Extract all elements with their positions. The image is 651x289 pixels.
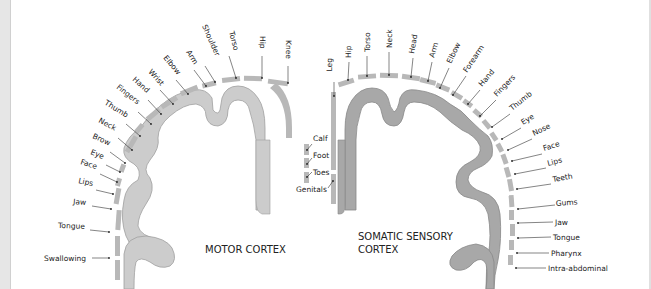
svg-text:Nose: Nose xyxy=(531,121,552,137)
svg-text:Foot: Foot xyxy=(313,151,329,160)
sensory-label-lips: Lips xyxy=(514,156,563,175)
svg-text:Tongue: Tongue xyxy=(552,233,580,242)
svg-text:SOMATIC SENSORY: SOMATIC SENSORY xyxy=(358,231,454,242)
motor-label-knee: Knee xyxy=(284,40,293,84)
svg-text:Lips: Lips xyxy=(546,156,563,168)
svg-text:Jaw: Jaw xyxy=(72,197,87,207)
svg-text:CORTEX: CORTEX xyxy=(358,244,399,255)
sensory-label-hand: Hand xyxy=(467,67,496,105)
sensory-label-neck: Neck xyxy=(385,29,394,76)
sensory-label-arm: Arm xyxy=(427,41,440,82)
svg-text:Tongue: Tongue xyxy=(57,221,85,231)
svg-text:Thumb: Thumb xyxy=(102,98,130,120)
svg-text:Neck: Neck xyxy=(385,29,394,48)
svg-text:Calf: Calf xyxy=(313,134,328,143)
motor-label-tongue: Tongue xyxy=(57,221,110,233)
motor-label-arm: Arm xyxy=(184,48,207,87)
sensory-label-pharynx: Pharynx xyxy=(516,249,582,258)
svg-text:Lips: Lips xyxy=(78,176,95,188)
svg-text:Face: Face xyxy=(542,139,561,153)
svg-text:Neck: Neck xyxy=(97,116,118,133)
sensory-label-gums: Gums xyxy=(517,197,578,209)
motor-cortex-lower-fold xyxy=(124,236,175,289)
svg-text:Arm: Arm xyxy=(427,41,440,58)
svg-text:Pharynx: Pharynx xyxy=(551,249,582,258)
svg-text:Jaw: Jaw xyxy=(554,218,568,227)
sensory-label-head: Head xyxy=(407,33,419,78)
svg-text:Torso: Torso xyxy=(363,32,372,53)
motor-label-shoulder: Shoulder xyxy=(200,23,222,83)
sensory-label-teeth: Teeth xyxy=(516,172,573,190)
sensory-label-eye: Eye xyxy=(501,112,536,140)
sensory-cortex-brain xyxy=(338,88,501,289)
motor-label-toes: Toes xyxy=(306,168,329,178)
svg-text:Brow: Brow xyxy=(91,132,112,148)
svg-text:Gums: Gums xyxy=(556,197,578,208)
svg-text:Head: Head xyxy=(407,33,419,54)
svg-text:Genitals: Genitals xyxy=(296,185,327,194)
svg-text:Wrist: Wrist xyxy=(147,67,167,87)
svg-text:Toes: Toes xyxy=(312,168,330,177)
sensory-label-jaw: Jaw xyxy=(517,218,568,227)
homunculus-diagram: Knee Hip Torso Shoulder Arm Elbow Wrist xyxy=(0,0,651,289)
motor-cortex-medial-wall xyxy=(256,140,270,214)
motor-cortex-gray-matter xyxy=(122,86,265,260)
motor-label-jaw: Jaw xyxy=(72,197,112,210)
svg-text:Hand: Hand xyxy=(477,67,497,88)
svg-text:Knee: Knee xyxy=(284,40,293,59)
svg-text:Arm: Arm xyxy=(184,48,200,66)
sensory-label-tongue: Tongue xyxy=(517,233,580,242)
motor-label-calf: Calf xyxy=(306,134,328,151)
sensory-label-genitals: Genitals xyxy=(296,180,334,194)
sensory-label-elbow: Elbow xyxy=(439,41,462,89)
svg-text:Hip: Hip xyxy=(258,36,267,49)
svg-text:Elbow: Elbow xyxy=(161,54,182,77)
sensory-cortex-medial-wall xyxy=(338,140,345,214)
svg-text:Leg: Leg xyxy=(325,58,334,72)
motor-label-brow: Brow xyxy=(91,132,126,164)
sensory-label-intra-abdominal: Intra-abdominal xyxy=(515,264,608,273)
motor-cortex-title: MOTOR CORTEX xyxy=(205,244,286,255)
svg-text:Fingers: Fingers xyxy=(492,73,517,99)
motor-label-lips: Lips xyxy=(78,176,114,195)
motor-label-elbow: Elbow xyxy=(161,54,188,95)
svg-text:Torso: Torso xyxy=(227,29,241,52)
svg-text:Eye: Eye xyxy=(89,148,106,162)
svg-text:Elbow: Elbow xyxy=(445,41,463,65)
motor-cortex-brain xyxy=(122,86,270,289)
motor-label-swallowing: Swallowing xyxy=(44,254,110,263)
motor-label-torso: Torso xyxy=(227,29,241,79)
svg-text:Eye: Eye xyxy=(519,112,536,127)
svg-text:Shoulder: Shoulder xyxy=(200,23,222,58)
sensory-label-hip: Hip xyxy=(344,45,353,81)
motor-cortex-labels: Knee Hip Torso Shoulder Arm Elbow Wrist xyxy=(44,23,330,263)
svg-text:Intra-abdominal: Intra-abdominal xyxy=(548,264,608,273)
svg-text:Hip: Hip xyxy=(344,45,353,58)
svg-text:Swallowing: Swallowing xyxy=(44,254,86,263)
svg-text:Forearm: Forearm xyxy=(461,43,486,74)
motor-label-hip: Hip xyxy=(258,36,267,79)
sensory-label-leg: Leg xyxy=(325,58,335,97)
sensory-cortex-title: SOMATIC SENSORY CORTEX xyxy=(358,231,454,255)
sensory-cortex-lower-fold xyxy=(450,244,494,289)
svg-text:Thumb: Thumb xyxy=(507,89,534,113)
svg-text:Teeth: Teeth xyxy=(551,172,574,185)
sensory-label-torso: Torso xyxy=(363,32,372,77)
motor-label-foot: Foot xyxy=(306,151,329,165)
svg-text:Face: Face xyxy=(79,157,98,171)
